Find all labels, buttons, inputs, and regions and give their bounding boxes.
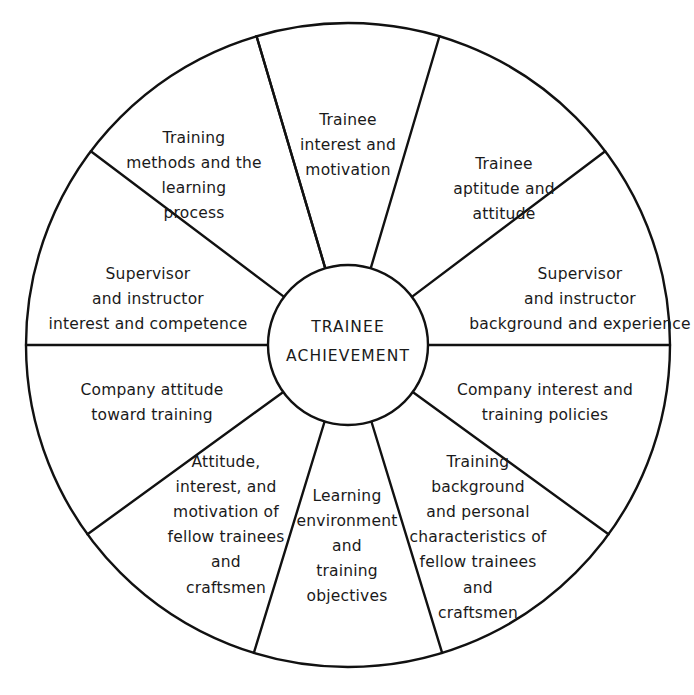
spoke-line-4 [413,392,609,534]
spoke-line-7 [88,392,284,534]
spoke-line-10 [257,36,326,268]
spoke-line-9 [91,151,284,297]
wheel-geometry [26,23,670,667]
hub-circle [268,265,428,425]
spoke-line-5 [371,422,442,653]
spoke-line-1 [371,36,440,268]
spoke-line-2 [412,151,605,297]
spoke-line-6 [254,422,325,653]
